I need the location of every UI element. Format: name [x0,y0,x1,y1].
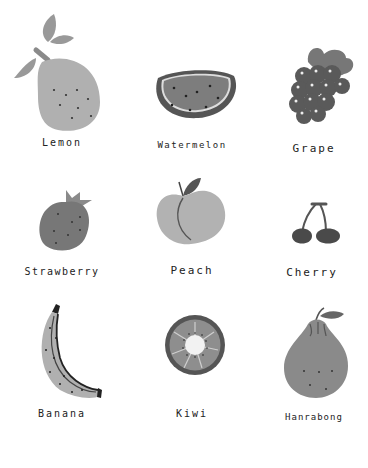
hanrabong-illustration [282,306,352,398]
label-kiwi: Kiwi [176,408,208,419]
label-peach: Peach [170,264,213,277]
label-watermelon: Watermelon [157,140,226,150]
lemon-illustration [8,12,108,134]
label-grape: Grape [292,142,335,155]
cherry-illustration [288,200,346,250]
label-strawberry: Strawberry [24,266,99,277]
kiwi-illustration [164,314,226,376]
grape-illustration [286,44,358,124]
strawberry-illustration [36,190,98,256]
banana-illustration [36,302,106,402]
label-lemon: Lemon [42,137,82,148]
peach-illustration [155,176,229,248]
label-hanrabong: Hanrabong [285,412,343,422]
watermelon-illustration [150,68,240,120]
label-cherry: Cherry [286,266,338,279]
label-banana: Banana [38,408,86,419]
